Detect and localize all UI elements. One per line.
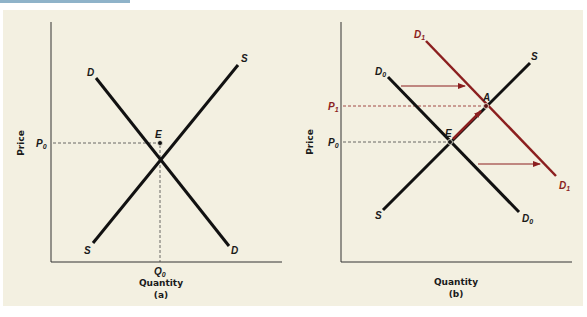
supply-curve [93,65,238,243]
d1-bottom-label: D1 [559,180,570,192]
supply-bottom-label: S [375,210,382,221]
equilibrium-a-point [484,104,489,109]
quantity-axis-title: Quantity [139,278,183,288]
d0-top-label: D0 [375,66,386,78]
price-axis-title: Price [305,129,315,155]
demand-curve [96,78,229,246]
demand-top-label: D [87,67,94,78]
equilibrium-a-label: A [482,92,490,103]
quantity-axis-title: Quantity [434,277,478,287]
panel-b: E A S S D0 D0 D1 D1 P1 P0 Quantity (b) P… [305,22,572,299]
demand-bottom-label: D [231,245,238,256]
equilibrium-e-label: E [445,128,452,139]
panel-caption: (a) [154,290,168,300]
supply-bottom-label: S [84,245,91,256]
panel-a: E D S S D P0 Q0 Quantity (a) Price [16,22,282,300]
supply-top-label: S [531,51,538,62]
movement-arrow [453,111,481,139]
equilibrium-label: E [155,129,162,140]
equilibrium-e-point [448,140,453,145]
p0-label: P0 [328,137,339,149]
supply-demand-figure: E D S S D P0 Q0 Quantity (a) Price E A S… [0,0,587,317]
q0-label: Q0 [154,266,166,278]
panel-caption: (b) [449,289,464,299]
equilibrium-point [158,141,163,146]
price-axis-title: Price [16,130,26,156]
p1-label: P1 [328,101,339,113]
supply-top-label: S [241,53,248,64]
demand-d0-curve [388,77,519,212]
p0-label: P0 [36,138,47,150]
d0-bottom-label: D0 [522,213,533,225]
d1-top-label: D1 [414,29,425,41]
